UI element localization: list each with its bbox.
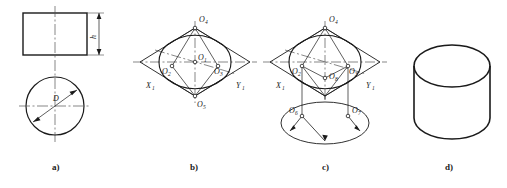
label-o1-sub: 1 xyxy=(204,57,207,63)
point-marker-c-o2 xyxy=(300,64,304,68)
point-marker-c-o7 xyxy=(346,114,350,118)
construction-c-o4-left-mid xyxy=(297,28,325,45)
label-c-o6-sub: 6 xyxy=(295,110,298,116)
arrowhead-h-bottom xyxy=(97,49,102,55)
panel-b: O 1 O 2 O 3 O 4 O 5 X 1 Y 1 xyxy=(133,15,257,110)
point-marker-o1 xyxy=(193,60,197,64)
construction-c-apex-left-mid xyxy=(297,79,325,96)
panel-caption-a: a) xyxy=(52,162,60,172)
construction-c-apex-o2 xyxy=(302,66,325,96)
height-label: h xyxy=(89,35,98,39)
point-marker-c-o8 xyxy=(323,76,327,80)
engineering-figure: h D xyxy=(0,0,507,188)
swing-arc-left xyxy=(302,116,325,141)
construction-c-o8-o2 xyxy=(302,66,325,78)
construction-o5-o2 xyxy=(172,66,195,96)
arrowhead-center-swing xyxy=(322,135,328,141)
construction-c-o4-o2 xyxy=(302,28,325,66)
label-c-axis-y1-sub: 1 xyxy=(372,85,375,91)
arrowhead-right-swing xyxy=(354,125,360,131)
point-marker-c-o6 xyxy=(300,114,304,118)
label-axis-x1-sub: 1 xyxy=(152,85,155,91)
point-marker-o2 xyxy=(170,64,174,68)
construction-c-o4-o3 xyxy=(325,28,348,66)
panel-c: O 2 O 3 O 4 O 6 O 7 O 8 X 1 Y 1 xyxy=(263,15,387,144)
cylinder-top-ellipse xyxy=(414,45,490,87)
construction-o4-o2 xyxy=(172,28,195,66)
panel-caption-d: d) xyxy=(445,162,453,172)
label-c-o7-sub: 7 xyxy=(358,110,361,116)
construction-c-apex-right-mid xyxy=(325,79,353,96)
label-c-o8-sub: 8 xyxy=(335,76,338,82)
label-o5-sub: 5 xyxy=(203,104,206,110)
point-marker-o4 xyxy=(193,26,197,30)
label-axis-x1: X xyxy=(145,81,152,90)
arrowhead-left-swing xyxy=(290,125,296,131)
label-c-o4-sub: 4 xyxy=(335,19,338,25)
label-o4-sub: 4 xyxy=(205,19,208,25)
construction-c-o4-right-mid xyxy=(325,28,353,45)
panel-d xyxy=(414,45,490,139)
label-c-axis-x1: X xyxy=(275,81,282,90)
diameter-label: D xyxy=(52,94,59,103)
figure-svg: h D xyxy=(0,0,507,188)
panel-caption-c: c) xyxy=(322,162,329,172)
label-c-axis-x1-sub: 1 xyxy=(282,85,285,91)
label-axis-y1-sub: 1 xyxy=(242,85,245,91)
label-o2-sub: 2 xyxy=(168,71,171,77)
label-c-o2-sub: 2 xyxy=(298,71,301,77)
label-c-o3-sub: 3 xyxy=(354,71,358,77)
cylinder-bottom-arc xyxy=(414,118,490,139)
point-marker-o5 xyxy=(193,94,197,98)
point-marker-c-o4 xyxy=(323,26,327,30)
panel-caption-b: b) xyxy=(190,162,198,172)
arrowhead-h-top xyxy=(97,13,102,19)
label-o3-sub: 3 xyxy=(219,71,223,77)
panel-a: h D xyxy=(19,6,104,142)
